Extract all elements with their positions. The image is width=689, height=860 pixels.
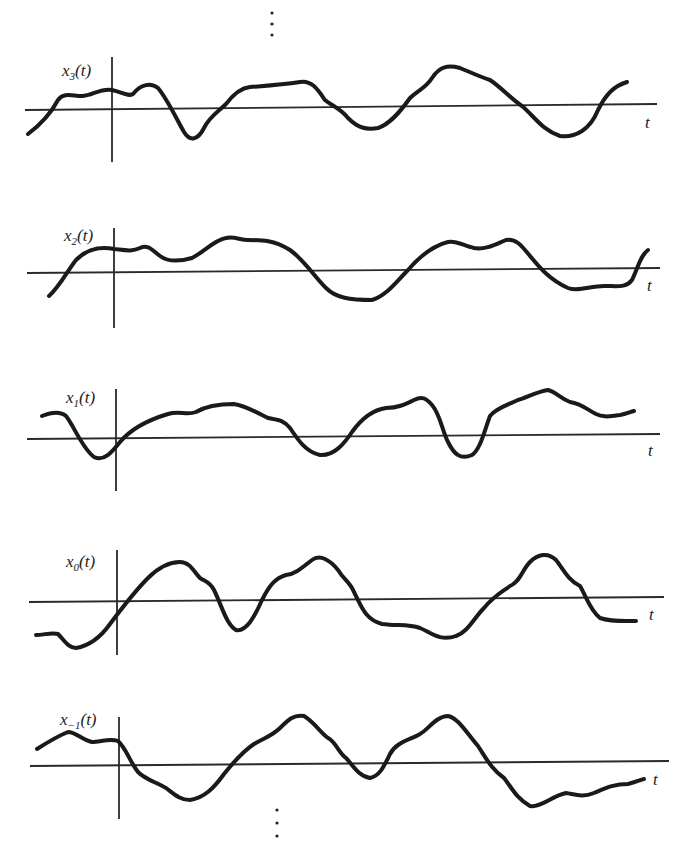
time-axis-label: t <box>648 441 654 460</box>
panel-x0: x0(t) t <box>29 550 664 655</box>
panel-label: x0(t) <box>65 552 95 573</box>
time-axis-label: t <box>653 770 659 789</box>
sample-function-curve <box>28 67 627 139</box>
ellipsis-bottom <box>275 808 278 837</box>
panel-label: x1(t) <box>65 388 95 409</box>
panel-x1: x1(t) t <box>27 388 660 491</box>
sample-function-curve <box>37 716 644 807</box>
panel-label: x2(t) <box>63 226 93 247</box>
ellipsis-top <box>270 11 273 36</box>
sample-function-curve <box>36 555 636 648</box>
sample-function-curve <box>42 390 634 458</box>
time-axis <box>29 597 664 602</box>
panel-label: x3(t) <box>61 61 91 82</box>
panel-label: x−1(t) <box>59 710 97 731</box>
panel-x-minus-1: x−1(t) t <box>30 710 669 819</box>
time-axis-label: t <box>647 276 653 295</box>
panel-x2: x2(t) t <box>27 226 660 328</box>
panel-x3: x3(t) t <box>25 57 657 162</box>
time-axis-label: t <box>645 113 651 132</box>
time-axis <box>27 268 660 273</box>
random-process-ensemble-figure: x3(t) t x2(t) t x1(t) t x0(t) t x−1(t) t <box>0 0 689 860</box>
time-axis-label: t <box>649 605 655 624</box>
